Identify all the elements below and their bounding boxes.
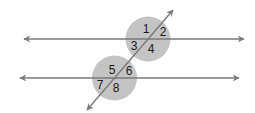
angle-label-7: 7 — [97, 78, 104, 92]
angle-label-2: 2 — [160, 25, 167, 39]
angle-label-4: 4 — [148, 42, 155, 56]
parallel-lines-transversal-diagram: 1 2 3 4 5 6 7 8 — [0, 0, 255, 113]
angle-label-3: 3 — [131, 39, 138, 53]
angle-label-6: 6 — [126, 64, 133, 78]
angle-label-1: 1 — [143, 22, 150, 36]
angle-label-5: 5 — [109, 63, 116, 77]
angle-label-8: 8 — [113, 81, 120, 95]
